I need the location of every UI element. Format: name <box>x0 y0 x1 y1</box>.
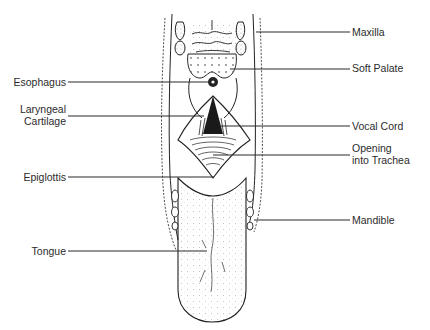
label-laryngeal-cartilage: Laryngeal Cartilage <box>20 103 66 127</box>
label-epiglottis: Epiglottis <box>23 171 66 183</box>
tongue-shape <box>178 178 246 322</box>
label-esophagus: Esophagus <box>13 76 66 88</box>
label-laryngeal-cartilage-line1: Laryngeal <box>20 103 66 115</box>
label-opening-into-trachea-line2: into Trachea <box>352 154 410 166</box>
anatomy-diagram: Esophagus Laryngeal Cartilage Epiglottis… <box>0 0 430 330</box>
label-vocal-cord: Vocal Cord <box>352 120 403 132</box>
label-opening-into-trachea: Opening into Trachea <box>352 142 410 166</box>
glottis <box>203 96 223 134</box>
soft-palate-shape <box>188 54 237 78</box>
label-laryngeal-cartilage-line2: Cartilage <box>20 115 66 127</box>
label-opening-into-trachea-line1: Opening <box>352 142 410 154</box>
label-tongue: Tongue <box>32 245 66 257</box>
label-mandible: Mandible <box>352 214 395 226</box>
label-maxilla: Maxilla <box>352 26 385 38</box>
label-soft-palate: Soft Palate <box>352 62 403 74</box>
